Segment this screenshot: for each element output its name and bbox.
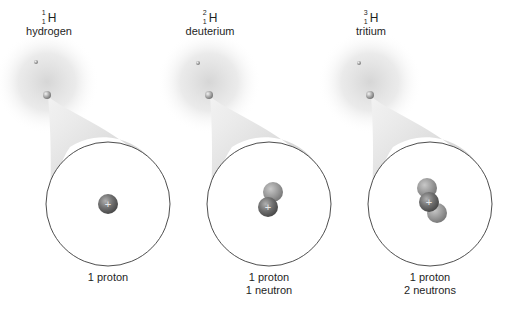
nucleus: + (98, 194, 118, 214)
atomic-number: 1 (203, 18, 207, 26)
mass-number: 2 (203, 9, 207, 17)
hydrogen-nucleus-caption: 1 proton (53, 271, 163, 284)
mass-number: 3 (364, 9, 368, 17)
isotope-name: hydrogen (14, 25, 84, 38)
deuterium-label: 21H deuterium (175, 12, 245, 38)
caption-line-neutrons: 2 neutrons (375, 284, 485, 297)
hydrogen-atom: + (0, 30, 170, 266)
proton-plus-sign: + (426, 196, 432, 208)
tritium-atom: + (318, 30, 492, 266)
isotope-symbol: 31H (336, 12, 406, 25)
tritium-nucleus-caption: 1 proton 2 neutrons (375, 271, 485, 297)
element-symbol: H (209, 11, 218, 25)
caption-line-protons: 1 proton (375, 271, 485, 284)
electron (205, 91, 213, 99)
isotope-symbol: 11H (14, 12, 84, 25)
atomic-number: 1 (364, 18, 368, 26)
deuterium-atom: + (157, 30, 331, 266)
isotope-symbol: 21H (175, 12, 245, 25)
element-symbol: H (370, 11, 379, 25)
small-electron-dot (196, 61, 200, 65)
deuterium-nucleus-caption: 1 proton 1 neutron (214, 271, 324, 297)
caption-line-protons: 1 proton (53, 271, 163, 284)
atomic-number: 1 (42, 18, 46, 26)
electron (43, 91, 51, 99)
isotope-name: tritium (336, 25, 406, 38)
caption-line-protons: 1 proton (214, 271, 324, 284)
isotope-name: deuterium (175, 25, 245, 38)
element-symbol: H (48, 11, 57, 25)
electron (366, 91, 374, 99)
isotope-diagram: + + + (0, 0, 507, 314)
small-electron-dot (357, 61, 361, 65)
proton-plus-sign: + (105, 198, 111, 210)
caption-line-neutrons: 1 neutron (214, 284, 324, 297)
tritium-label: 31H tritium (336, 12, 406, 38)
hydrogen-label: 11H hydrogen (14, 12, 84, 38)
small-electron-dot (34, 60, 38, 64)
mass-number: 1 (42, 9, 46, 17)
proton-plus-sign: + (265, 201, 271, 213)
